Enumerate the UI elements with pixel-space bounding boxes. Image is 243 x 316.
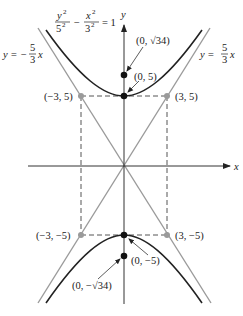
arrow-vertex-top xyxy=(128,81,139,92)
svg-text:y: y xyxy=(56,10,62,21)
asymptote-positive-label: y = 5 3 x xyxy=(199,42,235,65)
svg-text:3: 3 xyxy=(222,54,227,65)
svg-text:2: 2 xyxy=(91,21,95,29)
svg-text:x: x xyxy=(37,49,43,60)
svg-text:2: 2 xyxy=(62,21,66,29)
point-corner-br xyxy=(164,232,170,238)
point-corner-bl xyxy=(78,232,84,238)
svg-text:y = −: y = − xyxy=(2,49,27,60)
svg-text:2: 2 xyxy=(63,8,67,16)
point-vertex-top xyxy=(121,93,128,100)
label-focus-bottom: (0, −√34) xyxy=(72,280,112,292)
label-vertex-top: (0, 5) xyxy=(134,71,157,83)
svg-text:y =: y = xyxy=(199,49,214,60)
svg-text:= 1: = 1 xyxy=(102,17,116,28)
label-corner-tl: (−3, 5) xyxy=(44,91,73,103)
svg-text:3: 3 xyxy=(30,54,35,65)
point-focus-bottom xyxy=(121,253,128,260)
arrow-focus-top xyxy=(127,47,143,71)
point-corner-tr xyxy=(164,93,170,99)
svg-text:5: 5 xyxy=(222,42,227,53)
label-corner-bl: (−3, −5) xyxy=(36,230,71,242)
svg-text:3: 3 xyxy=(85,23,90,34)
svg-text:−: − xyxy=(74,17,80,28)
point-vertex-bottom xyxy=(121,232,128,239)
label-vertex-bottom: (0, −5) xyxy=(131,255,160,267)
asymptote-negative-label: y = − 5 3 x xyxy=(2,42,43,65)
arrow-focus-bottom xyxy=(98,259,120,279)
label-focus-top: (0, √34) xyxy=(136,35,170,47)
hyperbola-diagram: y x y 2 5 2 − x 2 3 2 = 1 y = − 5 3 x y … xyxy=(0,0,243,316)
svg-text:2: 2 xyxy=(92,8,96,16)
x-axis-label: x xyxy=(233,161,239,172)
point-focus-top xyxy=(121,72,128,79)
label-corner-tr: (3, 5) xyxy=(175,91,198,103)
y-axis-label: y xyxy=(120,9,126,20)
label-corner-br: (3, −5) xyxy=(175,230,204,242)
svg-text:x: x xyxy=(85,10,91,21)
svg-text:5: 5 xyxy=(30,42,35,53)
point-corner-tl xyxy=(78,93,84,99)
svg-text:5: 5 xyxy=(56,23,61,34)
svg-text:x: x xyxy=(229,49,235,60)
equation-label: y 2 5 2 − x 2 3 2 = 1 xyxy=(55,8,116,34)
